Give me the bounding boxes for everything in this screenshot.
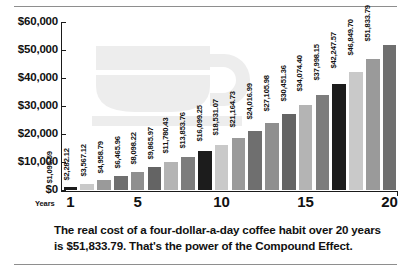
bar: $3,567.12 xyxy=(97,180,110,190)
bar: $13,853.76 xyxy=(198,151,211,190)
bar-value-label: $13,853.76 xyxy=(179,112,187,149)
bar-value-label: $6,465.96 xyxy=(114,136,122,168)
bar-value-label: $27,105.98 xyxy=(263,75,271,112)
bars-layer: $1,095.59$2,282.12$3,567.12$4,958.79$6,4… xyxy=(62,22,398,190)
y-axis-tick-mark xyxy=(61,78,66,79)
bar: $18,531.07 xyxy=(232,138,245,190)
y-axis-tick-label: $20,000 xyxy=(2,127,58,139)
bar-value-label: $18,531.07 xyxy=(213,99,221,136)
bar-value-label: $9,865.97 xyxy=(147,127,155,159)
y-axis-tick-mark xyxy=(61,22,66,23)
bar-value-label: $51,833.79 xyxy=(364,5,372,42)
y-axis-tick-mark xyxy=(61,134,66,135)
bar-value-label: $21,164.73 xyxy=(229,91,237,128)
bar: $9,865.97 xyxy=(164,162,177,190)
bar: $51,833.79 xyxy=(383,45,396,190)
bar-value-label: $34,074.40 xyxy=(297,55,305,92)
bar-value-label: $2,282.12 xyxy=(63,148,71,180)
bar-value-label: $42,247.57 xyxy=(330,32,338,69)
y-axis-tick-label: $0 xyxy=(2,183,58,195)
chart-figure: $0$10,000$20,000$30,000$40,000$50,000$60… xyxy=(0,0,411,271)
bar-value-label: $46,849.70 xyxy=(347,19,355,56)
y-axis-tick-label: $30,000 xyxy=(2,99,58,111)
bar: $11,780.43 xyxy=(181,157,194,190)
bar-value-label: $8,098.22 xyxy=(131,132,139,164)
y-axis-tick-mark xyxy=(61,50,66,51)
bar: $8,098.22 xyxy=(148,167,161,190)
bar: $24,016.99 xyxy=(265,123,278,190)
bar: $21,164.73 xyxy=(248,131,261,190)
x-axis-tick-label: 10 xyxy=(213,193,230,210)
x-axis-tick-label: 5 xyxy=(133,193,141,210)
bar-value-label: $24,016.99 xyxy=(246,83,254,120)
y-axis-tick-label: $40,000 xyxy=(2,71,58,83)
x-axis-line xyxy=(61,191,398,192)
y-axis-tick-label: $50,000 xyxy=(2,43,58,55)
x-axis-tick-label: 20 xyxy=(381,193,398,210)
bar: $27,105.98 xyxy=(282,114,295,190)
bar-value-label: $11,780.43 xyxy=(162,118,170,154)
bar-value-label: $37,998.15 xyxy=(313,44,321,81)
figure-caption: The real cost of a four-dollar-a-day cof… xyxy=(54,222,384,254)
x-axis-tick-label: 1 xyxy=(66,193,74,210)
bar: $42,247.57 xyxy=(349,72,362,190)
y-axis-tick-mark xyxy=(61,162,66,163)
bar: $6,465.96 xyxy=(131,172,144,190)
bottom-divider-rule xyxy=(14,264,397,265)
bar-value-label: $4,958.79 xyxy=(97,141,105,173)
bar: $4,958.79 xyxy=(114,176,127,190)
bar: $34,074.40 xyxy=(316,95,329,190)
bar: $16,099.25 xyxy=(215,145,228,190)
x-axis-title: Years xyxy=(35,199,55,208)
y-axis-tick-mark xyxy=(61,106,66,107)
bar-value-label: $3,567.12 xyxy=(80,145,88,177)
y-axis-tick-label: $60,000 xyxy=(2,15,58,27)
top-divider-rule xyxy=(14,6,397,7)
plot-area: $1,095.59$2,282.12$3,567.12$4,958.79$6,4… xyxy=(62,22,398,190)
bar-value-label: $30,451.36 xyxy=(280,65,288,102)
bar: $37,998.15 xyxy=(332,84,345,190)
y-axis-tick-mark xyxy=(61,190,66,191)
bar-value-label: $16,099.25 xyxy=(196,105,204,142)
bar: $2,282.12 xyxy=(80,184,93,190)
bar-chart: $0$10,000$20,000$30,000$40,000$50,000$60… xyxy=(0,10,411,206)
bar: $46,849.70 xyxy=(366,59,379,190)
x-axis-tick-label: 15 xyxy=(297,193,314,210)
bar-value-label: $1,095.59 xyxy=(47,152,55,184)
x-axis-labels: 15101520 xyxy=(62,193,398,213)
bar: $30,451.36 xyxy=(299,105,312,190)
